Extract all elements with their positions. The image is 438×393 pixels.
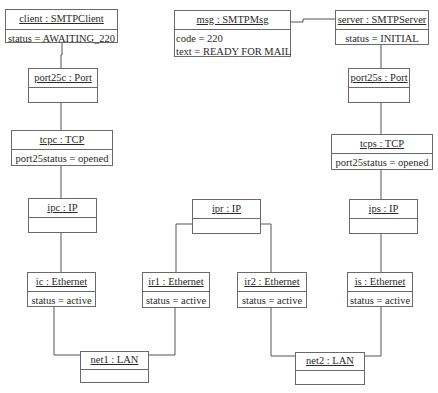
link-lines — [0, 0, 438, 393]
object-name: ic : Ethernet — [28, 273, 95, 292]
link-ipr-ir1 — [176, 224, 192, 272]
object-ir1[interactable]: ir1 : Ethernet status = active — [142, 272, 210, 308]
attribute: status = active — [29, 294, 94, 307]
link-is-net2 — [364, 306, 381, 356]
object-name: ips : IP — [350, 200, 417, 219]
object-ic[interactable]: ic : Ethernet status = active — [27, 272, 96, 307]
object-client[interactable]: client : SMTPClient status = AWAITING_22… — [5, 9, 118, 43]
attribute: status = AWAITING_220 — [7, 32, 116, 45]
object-msg[interactable]: msg : SMTPMsg code = 220text = READY FOR… — [174, 10, 291, 57]
object-name: client : SMTPClient — [6, 10, 117, 30]
attribute: code = 220 — [176, 32, 289, 45]
attribute: port25status = opened — [333, 156, 431, 169]
attribute: port25status = opened — [13, 152, 111, 165]
object-net1[interactable]: net1 : LAN — [80, 351, 149, 383]
object-name: ipc : IP — [29, 199, 96, 218]
link-ic-net1 — [54, 306, 80, 355]
attribute: status = active — [239, 294, 305, 307]
link-ir2-net2 — [271, 307, 295, 356]
attribute: status = active — [144, 294, 208, 307]
link-ir1-net1 — [148, 307, 175, 355]
link-client-port25c — [61, 42, 62, 68]
object-port25s[interactable]: port25s : Port — [348, 68, 410, 103]
object-name: ipr : IP — [193, 200, 260, 219]
object-name: port25s : Port — [349, 69, 409, 88]
object-name: tcpc : TCP — [12, 131, 112, 150]
object-name: ir2 : Ethernet — [238, 273, 306, 292]
object-name: net1 : LAN — [81, 352, 148, 370]
object-server[interactable]: server : SMTPServer status = INITIAL — [335, 10, 429, 45]
attribute: status = INITIAL — [337, 32, 427, 45]
object-tcps[interactable]: tcps : TCP port25status = opened — [331, 134, 433, 170]
object-name: is : Ethernet — [348, 273, 412, 292]
object-diagram: client : SMTPClient status = AWAITING_22… — [0, 0, 438, 393]
object-name: ir1 : Ethernet — [143, 273, 209, 292]
object-name: port25c : Port — [29, 69, 97, 88]
object-name: server : SMTPServer — [336, 11, 428, 30]
object-tcpc[interactable]: tcpc : TCP port25status = opened — [11, 130, 113, 166]
object-ipc[interactable]: ipc : IP — [28, 198, 97, 233]
object-port25c[interactable]: port25c : Port — [28, 68, 98, 103]
attribute: status = active — [349, 294, 411, 307]
attribute: text = READY FOR MAIL — [176, 45, 289, 58]
object-name: msg : SMTPMsg — [175, 11, 290, 30]
object-net2[interactable]: net2 : LAN — [295, 352, 365, 385]
link-ipr-ir2 — [260, 224, 271, 272]
object-is[interactable]: is : Ethernet status = active — [347, 272, 413, 307]
object-name: net2 : LAN — [296, 353, 364, 371]
object-name: tcps : TCP — [332, 135, 432, 154]
object-ir2[interactable]: ir2 : Ethernet status = active — [237, 272, 307, 308]
object-ips[interactable]: ips : IP — [349, 199, 418, 234]
link-msg-server — [290, 19, 335, 22]
object-ipr[interactable]: ipr : IP — [192, 199, 261, 234]
